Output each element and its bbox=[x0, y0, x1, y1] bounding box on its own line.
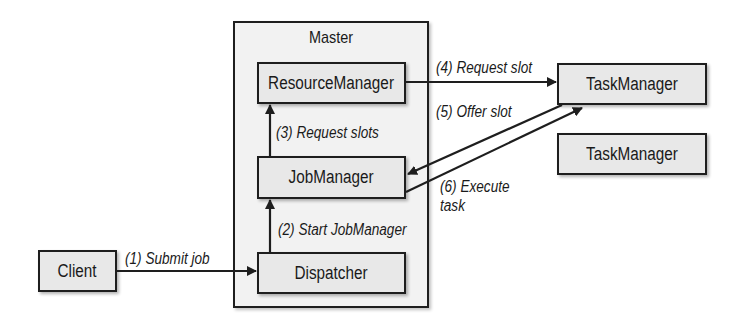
task-manager-1-label: TaskManager bbox=[586, 74, 678, 95]
client-node: Client bbox=[38, 250, 117, 292]
label-offer-slot: (5) Offer slot bbox=[436, 103, 512, 121]
resource-manager-node: ResourceManager bbox=[257, 62, 406, 104]
dispatcher-node: Dispatcher bbox=[257, 252, 406, 294]
task-manager-2-label: TaskManager bbox=[586, 144, 678, 165]
label-request-slots: (3) Request slots bbox=[276, 124, 379, 142]
job-manager-label: JobManager bbox=[289, 167, 374, 188]
label-start-jobmanager: (2) Start JobManager bbox=[278, 221, 407, 239]
master-title: Master bbox=[249, 28, 412, 48]
resource-manager-label: ResourceManager bbox=[269, 73, 395, 94]
task-manager-node-2: TaskManager bbox=[557, 133, 707, 175]
task-manager-node-1: TaskManager bbox=[557, 63, 707, 105]
label-execute-task-line2: task bbox=[440, 197, 465, 215]
client-label: Client bbox=[58, 261, 97, 282]
label-request-slot: (4) Request slot bbox=[436, 59, 532, 77]
dispatcher-label: Dispatcher bbox=[295, 263, 368, 284]
job-manager-node: JobManager bbox=[257, 156, 406, 199]
label-submit-job: (1) Submit job bbox=[125, 250, 210, 268]
label-execute-task-line1: (6) Execute bbox=[440, 178, 510, 196]
